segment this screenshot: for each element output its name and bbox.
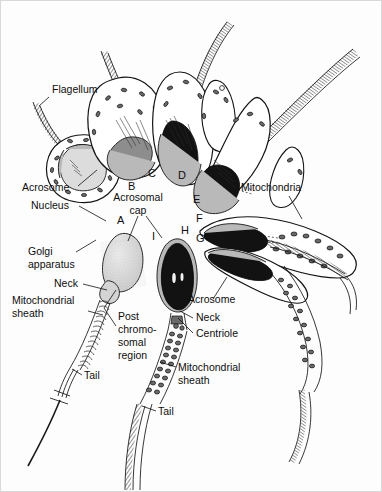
label-mitochondria: Mitochondria <box>241 181 301 193</box>
label-mitochondrial-sheath-left: Mitochondrialsheath <box>12 294 74 319</box>
label-golgi-apparatus: Golgiapparatus <box>28 245 75 270</box>
stage-label-c: C <box>148 167 156 179</box>
label-line: somal <box>118 336 146 348</box>
label-line: Golgi <box>28 245 53 257</box>
cell-g <box>205 248 322 464</box>
leader-golgi-apparatus <box>76 240 96 252</box>
label-tail-left: Tail <box>84 369 100 381</box>
label-acrosomal-cap: Acrosomalcap <box>113 191 163 216</box>
label-line: region <box>118 349 147 361</box>
stage-label-i: I <box>152 230 155 242</box>
label-line: Tail <box>84 369 100 381</box>
label-line: Tail <box>158 405 174 417</box>
label-line: Mitochondrial <box>178 361 240 373</box>
label-line: Centriole <box>196 327 238 339</box>
label-line: sheath <box>12 307 44 319</box>
label-neck-left: Neck <box>54 277 79 289</box>
label-post-chromosomal-region: Postchromo-somalregion <box>118 310 157 361</box>
stage-label-d: D <box>178 169 186 181</box>
label-line: Neck <box>54 277 79 289</box>
stage-label-e: E <box>193 193 200 205</box>
leader-flagellum <box>39 97 49 106</box>
label-line: Acrosome <box>188 293 235 305</box>
label-mitochondrial-sheath-right: Mitochondrialsheath <box>178 361 240 386</box>
stage-label-f: F <box>196 212 203 224</box>
label-neck-right: Neck <box>196 311 221 323</box>
label-line: Acrosome <box>22 181 69 193</box>
label-line: chromo- <box>118 323 157 335</box>
stage-label-a: A <box>117 214 125 226</box>
label-line: Acrosomal <box>113 191 163 203</box>
spermiogenesis-figure: FlagellumAcrosomeNucleusGolgiapparatusNe… <box>0 0 382 492</box>
label-line: Post <box>118 310 139 322</box>
stage-label-b: B <box>128 180 135 192</box>
diagram-canvas: FlagellumAcrosomeNucleusGolgiapparatusNe… <box>0 0 382 492</box>
leader-nucleus <box>79 206 106 221</box>
label-line: Mitochondrial <box>12 294 74 306</box>
label-line: Flagellum <box>52 83 98 95</box>
stage-label-g: G <box>196 232 205 244</box>
label-line: Nucleus <box>31 199 69 211</box>
label-line: Neck <box>196 311 221 323</box>
label-line: apparatus <box>28 258 75 270</box>
label-centriole: Centriole <box>196 327 238 339</box>
label-acrosome-right: Acrosome <box>188 293 235 305</box>
stage-label-h: H <box>181 224 189 236</box>
label-flagellum: Flagellum <box>52 83 98 95</box>
label-line: Mitochondria <box>241 181 301 193</box>
mitochondrial-sheath-coil-i <box>78 301 110 369</box>
label-acrosome-left: Acrosome <box>22 181 69 193</box>
label-line: cap <box>130 204 147 216</box>
label-nucleus: Nucleus <box>31 199 69 211</box>
label-line: sheath <box>178 374 210 386</box>
label-tail-right: Tail <box>158 405 174 417</box>
